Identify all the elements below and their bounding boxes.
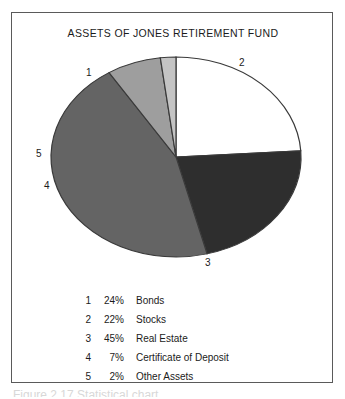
pie-slice-bonds[interactable]	[176, 57, 301, 157]
legend-percent: 24%	[91, 295, 124, 306]
legend-label: Certificate of Deposit	[136, 352, 229, 363]
figure-frame: ASSETS OF JONES RETIREMENT FUND 1 2 3 4 …	[11, 12, 333, 383]
legend-percent: 2%	[91, 371, 124, 382]
legend-percent: 7%	[91, 352, 124, 363]
legend-key: 5	[80, 371, 91, 382]
legend-row[interactable]: 2 22% Stocks	[80, 314, 320, 333]
pie-label-5: 5	[36, 149, 42, 159]
legend-label: Real Estate	[136, 333, 188, 344]
legend-key: 2	[80, 314, 91, 325]
pie-label-1: 1	[86, 68, 92, 78]
legend-key: 1	[80, 295, 91, 306]
pie-label-2: 2	[239, 58, 245, 68]
legend-percent: 22%	[91, 314, 124, 325]
legend-label: Other Assets	[136, 371, 193, 382]
legend-row[interactable]: 5 2% Other Assets	[80, 371, 320, 390]
pie-label-3: 3	[205, 258, 211, 268]
legend-label: Stocks	[136, 314, 166, 325]
legend-percent: 45%	[91, 333, 124, 344]
legend-row[interactable]: 4 7% Certificate of Deposit	[80, 352, 320, 371]
legend-key: 3	[80, 333, 91, 344]
figure-caption: Figure 2.17 Statistical chart	[13, 389, 233, 397]
figure-caption-text: Figure 2.17 Statistical chart	[13, 389, 233, 397]
legend-label: Bonds	[136, 295, 164, 306]
legend-row[interactable]: 1 24% Bonds	[80, 295, 320, 314]
pie-label-4: 4	[44, 181, 50, 191]
pie-slices	[51, 57, 301, 257]
legend-row[interactable]: 3 45% Real Estate	[80, 333, 320, 352]
legend-key: 4	[80, 352, 91, 363]
legend: 1 24% Bonds 2 22% Stocks 3 45% Real Esta…	[80, 295, 320, 390]
